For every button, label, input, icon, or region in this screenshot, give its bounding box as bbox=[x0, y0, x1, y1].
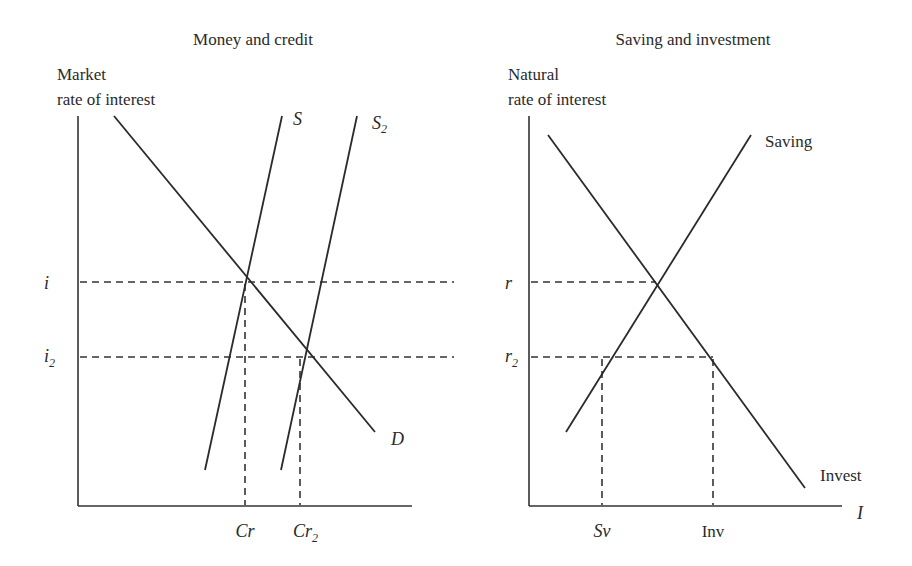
y-axis-label-line2: rate of interest bbox=[508, 90, 606, 109]
y-axis-label-line2: rate of interest bbox=[57, 90, 155, 109]
saving-curve bbox=[566, 135, 751, 432]
investment-curve bbox=[548, 135, 805, 488]
supply-curve-s bbox=[205, 116, 282, 470]
label-saving: Saving bbox=[765, 132, 813, 151]
label-d: D bbox=[390, 429, 404, 449]
tick-r: r bbox=[505, 273, 513, 293]
y-axis-label-line1: Market bbox=[57, 65, 106, 84]
tick-cr2: Cr2 bbox=[293, 521, 318, 545]
panel-title: Money and credit bbox=[193, 30, 313, 49]
panel-saving-investment: Saving and investment Natural rate of in… bbox=[505, 30, 864, 541]
tick-sv: Sv bbox=[594, 521, 611, 541]
tick-cr: Cr bbox=[235, 521, 255, 541]
y-axis-label-line1: Natural bbox=[508, 65, 559, 84]
panel-money-credit: Money and credit Market rate of interest… bbox=[44, 30, 454, 545]
x-axis-label: I bbox=[856, 503, 864, 523]
tick-i: i bbox=[44, 273, 49, 293]
tick-i2: i2 bbox=[44, 346, 55, 370]
panel-title: Saving and investment bbox=[616, 30, 771, 49]
supply-curve-s2 bbox=[281, 116, 357, 470]
diagram-canvas: Money and credit Market rate of interest… bbox=[0, 0, 912, 566]
label-s2: S2 bbox=[372, 113, 387, 136]
label-s: S bbox=[293, 109, 302, 129]
tick-inv: Inv bbox=[702, 522, 725, 541]
tick-r2: r2 bbox=[505, 346, 518, 370]
label-invest: Invest bbox=[820, 466, 862, 485]
